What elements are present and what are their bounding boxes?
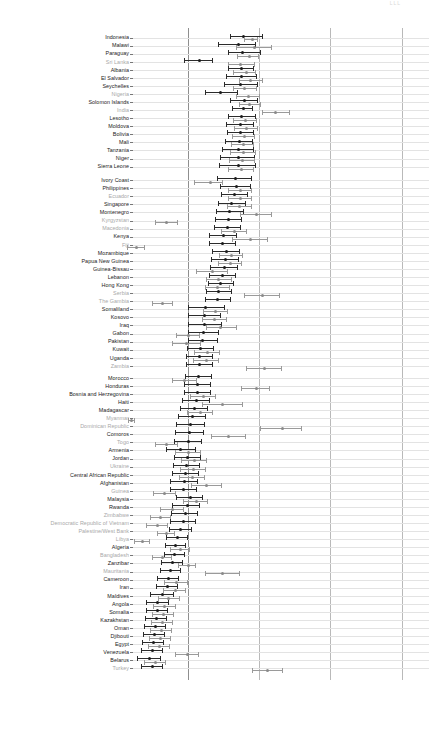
y-axis-label-afghanistan: Afghanistan [1,480,129,486]
y-axis-tick [130,317,133,318]
y-axis-label-nigeria: Nigeria [1,91,129,97]
y-axis-label-zanzibar: Zanzibar [1,560,129,566]
y-axis-label-uganda: Uganda [1,355,129,361]
y-axis-label-turkey: Turkey [1,665,129,671]
y-axis-tick [130,54,133,55]
y-axis-label-somaliland: Somaliland [1,306,129,312]
y-axis-tick [130,467,133,468]
y-axis-tick [130,483,133,484]
y-axis-label-macedonia: Macedonia [1,225,129,231]
y-axis-label-democratic-republic-of-vietnam: Democratic Republic of Vietnam [1,520,129,526]
y-axis-tick [130,269,133,270]
y-axis-tick [130,475,133,476]
y-axis-label-mauritania: Mauritania [1,568,129,574]
y-axis-tick [130,188,133,189]
y-axis-label-niger: Niger [1,155,129,161]
y-axis-label-lebanon: Lebanon [1,274,129,280]
y-axis-label-bolivia: Bolivia [1,131,129,137]
y-axis-tick [130,212,133,213]
y-axis-tick [130,499,133,500]
y-axis-tick [130,426,133,427]
y-axis-label-mozambique: Mozambique [1,250,129,256]
y-axis-tick [130,126,133,127]
y-axis-tick [130,46,133,47]
y-axis-label-egypt: Egypt [1,641,129,647]
y-axis-label-haiti: Haiti [1,399,129,405]
y-axis-tick [130,515,133,516]
y-axis-label-tanzania: Tanzania [1,147,129,153]
y-axis-tick [130,325,133,326]
y-axis-label-papua-new-guinea: Papua New Guinea [1,258,129,264]
y-axis-tick [130,620,133,621]
y-axis-label-madagascar: Madagascar [1,407,129,413]
y-axis-label-fiji: Fiji [1,242,129,248]
y-axis-label-zambia: Zambia [1,363,129,369]
y-axis-label-iraq: Iraq [1,322,129,328]
y-axis-label-pakistan: Pakistan [1,338,129,344]
y-axis-label-comoros: Comoros [1,431,129,437]
y-axis-label-angola: Angola [1,601,129,607]
y-axis-label-singapore: Singapore [1,201,129,207]
y-axis-tick [130,604,133,605]
y-axis-label-india: India [1,107,129,113]
y-axis-label-el-salvador: El Salvador [1,75,129,81]
y-axis-label-malaysia: Malaysia [1,496,129,502]
y-axis-label-malawi: Malawi [1,42,129,48]
y-axis-tick [130,78,133,79]
y-axis-label-kazakhstan: Kazakhstan [1,617,129,623]
y-axis-label-algeria: Algeria [1,544,129,550]
y-axis-tick [130,301,133,302]
plot-area: IndonesiaMalawiParaguaySri LankaAlbaniaE… [0,0,429,750]
y-axis-label-sierra-leone: Sierra Leone [1,163,129,169]
y-axis-tick [130,539,133,540]
y-axis-label-montenegro: Montenegro [1,209,129,215]
y-axis-label-kyrgyzstan: Kyrgyzstan [1,217,129,223]
y-axis-tick [130,167,133,168]
y-axis-label-morocco: Morocco [1,375,129,381]
y-axis-label-ecuador: Ecuador [1,193,129,199]
y-axis-labels: IndonesiaMalawiParaguaySri LankaAlbaniaE… [0,0,429,750]
y-axis-tick [130,150,133,151]
y-axis-label-cameroon: Cameroon [1,576,129,582]
y-axis-tick [130,285,133,286]
forest-plot-figure: IndonesiaMalawiParaguaySri LankaAlbaniaE… [0,0,429,750]
y-axis-label-libya: Libya [1,536,129,542]
y-axis-tick [130,644,133,645]
y-axis-label-solomon-islands: Solomon Islands [1,99,129,105]
y-axis-tick [130,62,133,63]
y-axis-label-serbia: Serbia [1,290,129,296]
y-axis-label-zimbabwe: Zimbabwe [1,512,129,518]
y-axis-label-sri-lanka: Sri Lanka [1,59,129,65]
y-axis-tick [130,221,133,222]
y-axis-label-togo: Togo [1,439,129,445]
y-axis-tick [130,38,133,39]
y-axis-tick [130,555,133,556]
y-axis-tick [130,94,133,95]
y-axis-label-hong-kong: Hong Kong [1,282,129,288]
y-axis-tick [130,531,133,532]
y-axis-label-honduras: Honduras [1,383,129,389]
y-axis-tick [130,612,133,613]
y-axis-tick [130,142,133,143]
y-axis-label-armenia: Armenia [1,447,129,453]
y-axis-label-djibouti: Djibouti [1,633,129,639]
y-axis-tick [130,386,133,387]
y-axis-tick [130,253,133,254]
y-axis-tick [130,229,133,230]
y-axis-tick [130,293,133,294]
y-axis-label-bangladesh: Bangladesh [1,552,129,558]
y-axis-label-seychelles: Seychelles [1,83,129,89]
y-axis-label-maldives: Maldives [1,593,129,599]
y-axis-label-kenya: Kenya [1,233,129,239]
y-axis-tick [130,418,133,419]
y-axis-label-indonesia: Indonesia [1,34,129,40]
y-axis-tick [130,588,133,589]
y-axis-label-jordan: Jordan [1,455,129,461]
y-axis-tick [130,547,133,548]
y-axis-label-myanmar: Myanmar [1,415,129,421]
y-axis-tick [130,159,133,160]
y-axis-tick [130,134,133,135]
y-axis-tick [130,261,133,262]
y-axis-tick [130,410,133,411]
y-axis-tick [130,102,133,103]
